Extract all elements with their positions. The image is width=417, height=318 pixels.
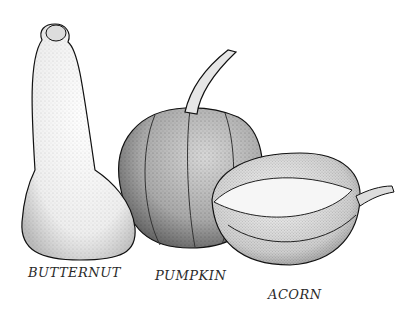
acorn-label: ACORN <box>268 287 322 302</box>
butternut-drawing <box>22 24 135 260</box>
squash-illustration: BUTTERNUT PUMPKIN ACORN <box>0 0 417 318</box>
butternut-label: BUTTERNUT <box>28 265 121 280</box>
acorn-drawing <box>212 153 394 265</box>
pumpkin-label: PUMPKIN <box>155 268 226 283</box>
